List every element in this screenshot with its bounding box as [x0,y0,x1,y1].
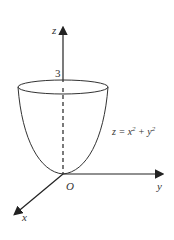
equation-mid: + y [136,126,152,137]
height-label: 3 [55,68,61,79]
paraboloid-diagram: z 3 z = x2 + y2 O y x [0,0,174,240]
equation-label: z = x2 + y2 [112,126,155,137]
equation-exp2: 2 [152,125,156,133]
origin-label: O [66,181,74,192]
x-axis [15,174,63,214]
z-axis-label: z [52,25,56,36]
y-axis-label: y [157,181,162,192]
equation-lhs: z = x [112,126,132,137]
x-axis-label: x [22,212,27,223]
diagram-canvas [0,0,174,240]
